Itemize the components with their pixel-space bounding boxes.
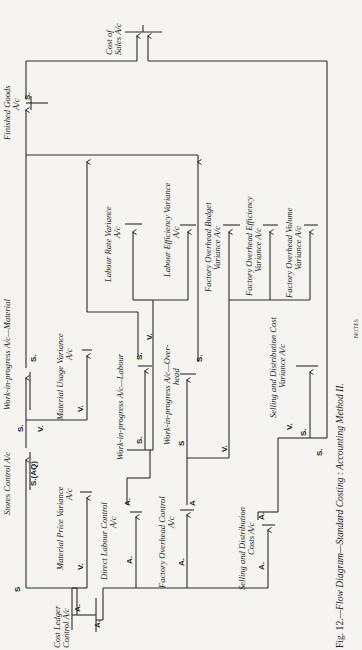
- marker-s-wipm-in: S.: [16, 424, 25, 432]
- label-cost-ledger-2: Control A/c: [61, 608, 71, 648]
- flow-diagram: Cost Ledger Control A/c A. A. S Stores C…: [0, 0, 362, 650]
- label-fo-volume-variance-ac: Variance A/c: [293, 226, 303, 270]
- caption-number: Fig. 12.: [334, 618, 345, 648]
- label-wip-overhead-2: head: [171, 368, 181, 385]
- label-labour-rate-variance-ac: A/c: [112, 226, 122, 239]
- marker-s-aq: S.(AQ): [29, 461, 38, 486]
- svg-text:Fig. 12.—Flow Diagram—Standard: Fig. 12.—Flow Diagram—Standard Costing :…: [334, 383, 345, 648]
- label-finished-goods: Finished Goods: [2, 85, 12, 141]
- label-material-usage-variance: Material Usage Variance: [55, 333, 65, 421]
- account-labels: Cost Ledger Control A/c A. A. S Stores C…: [2, 23, 324, 648]
- label-labour-rate-variance: Labour Rate Variance: [103, 206, 113, 283]
- marker-s-wipo-out: S.: [195, 354, 204, 362]
- marker-v-labour: V.: [145, 333, 154, 340]
- connector-lines: [26, 25, 327, 632]
- label-material-usage-variance-ac: A/c: [64, 348, 74, 361]
- label-sd-costs-ac: Costs A/c: [246, 522, 256, 555]
- marker-a-dlc-in: A.: [125, 556, 134, 564]
- label-wip-material: Work-in-progress A/c—Material: [2, 299, 12, 410]
- marker-v-overhead: V.: [220, 445, 229, 452]
- label-direct-labour-control: Direct Labour Control: [99, 502, 109, 581]
- label-wip-labour: Work-in-progress A/c—Labour: [115, 353, 125, 460]
- marker-a-1: A.: [73, 604, 82, 612]
- label-fo-efficiency-variance-ac: Variance A/c: [253, 228, 263, 272]
- label-fo-budget-variance-ac: Variance A/c: [212, 226, 222, 270]
- marker-a-foc-in: A.: [177, 558, 186, 566]
- marker-a-sd-in: A.: [257, 562, 266, 570]
- label-wip-overhead: Work-in-progress A/c—Over-: [162, 344, 172, 445]
- marker-a-2: A.: [93, 620, 102, 628]
- marker-v-stores: V.: [36, 425, 45, 432]
- marker-s-wipl-out: S.: [135, 352, 144, 360]
- label-labour-efficiency-variance-ac: A/c: [171, 226, 181, 239]
- book-page: Cost Ledger Control A/c A. A. S Stores C…: [0, 0, 362, 650]
- marker-a-dlc-out: A.: [123, 498, 132, 506]
- label-factory-overhead-control-ac: A/c: [166, 516, 176, 529]
- notes-label: NOTES: [353, 319, 359, 338]
- label-finished-goods-ac: A/c: [11, 98, 21, 111]
- label-direct-labour-control-ac: A/c: [108, 516, 118, 529]
- marker-s-wipo-in: S: [177, 440, 186, 446]
- label-sd-cost-variance-ac: Variance A/c: [277, 344, 287, 388]
- marker-s-wipl-in: S.: [135, 436, 144, 444]
- marker-a-sd-out: A.: [257, 512, 266, 520]
- label-material-price-variance-ac: A/c: [64, 488, 74, 501]
- marker-a-foc-out: A: [188, 500, 197, 506]
- marker-s-fg: S.: [23, 92, 32, 100]
- caption-text: —Flow Diagram—Standard Costing : Account…: [334, 383, 345, 619]
- figure-caption: Fig. 12.—Flow Diagram—Standard Costing :…: [334, 319, 359, 648]
- marker-v-sd: V.: [285, 423, 294, 430]
- marker-v-muv: V.: [76, 405, 85, 412]
- marker-s-stores: S: [13, 586, 22, 592]
- marker-s-sd-2: S.: [299, 428, 308, 436]
- label-factory-overhead-control: Factory Overhead Control: [157, 496, 167, 589]
- marker-v-mpv: V.: [76, 563, 85, 570]
- marker-s-wipm-out: S.: [29, 354, 38, 362]
- label-stores-control: Stores Control A/c: [2, 452, 12, 515]
- marker-s-sd-1: S.: [315, 448, 324, 456]
- label-cost-of-sales-ac: Sales A/c: [113, 23, 123, 55]
